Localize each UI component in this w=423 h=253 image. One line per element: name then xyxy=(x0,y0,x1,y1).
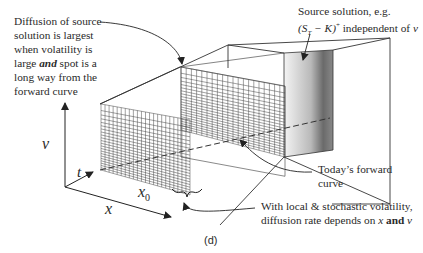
x-range-brace xyxy=(172,189,202,197)
axis-label-v: v xyxy=(42,135,49,153)
annotation-local-stochastic: With local & stochastic volatility, diff… xyxy=(261,199,413,227)
annotation-diffusion-largest: Diffusion of source solution is largest … xyxy=(14,14,102,98)
leader-diffusion xyxy=(100,22,182,64)
axis-label-x0: x0 xyxy=(138,183,150,203)
annotation-source-solution: Source solution, e.g. (ST − K)+ independ… xyxy=(298,4,418,40)
back-grid-lines xyxy=(181,67,285,157)
figure-caption: (d) xyxy=(204,233,217,247)
axis-label-t: t xyxy=(77,164,81,181)
annotation-forward-curve: Today’s forward curve xyxy=(318,162,392,190)
axes xyxy=(65,103,171,217)
source-solution-panel xyxy=(284,50,333,157)
front-grid-lines xyxy=(101,104,190,195)
axis-label-x: x xyxy=(105,200,112,218)
leader-local-stoch xyxy=(184,203,255,211)
